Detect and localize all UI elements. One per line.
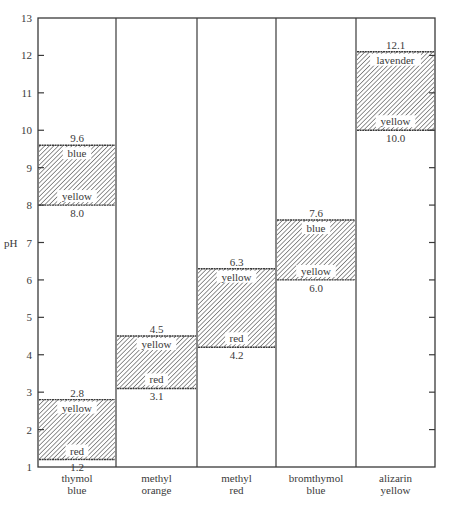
x-category-label: methyl <box>141 472 172 484</box>
ph-indicator-chart: 2.8yellowred1.29.6blueyellow8.04.5yellow… <box>0 0 452 508</box>
x-category-label: yellow <box>381 484 411 496</box>
range-high-color-label: lavender <box>377 54 415 66</box>
range-high-value: 4.5 <box>150 323 164 335</box>
x-category-label: blue <box>307 484 326 496</box>
indicator-column <box>197 18 276 467</box>
range-high-color-label: yellow <box>142 338 172 350</box>
y-tick-label: 9 <box>27 162 33 174</box>
range-low-value: 3.1 <box>150 390 164 402</box>
range-low-value: 6.0 <box>309 282 323 294</box>
range-high-color-label: yellow <box>62 402 92 414</box>
y-tick-label: 13 <box>21 12 33 24</box>
x-category-label: red <box>229 484 244 496</box>
range-high-value: 7.6 <box>309 207 323 219</box>
range-high-color-label: blue <box>68 147 87 159</box>
y-tick-label: 11 <box>21 87 32 99</box>
y-tick-label: 12 <box>21 49 32 61</box>
y-tick-label: 2 <box>27 424 33 436</box>
y-tick-label: 10 <box>21 124 33 136</box>
range-low-color-label: yellow <box>301 265 331 277</box>
y-axis-title: pH <box>4 237 18 249</box>
y-tick-label: 3 <box>27 386 33 398</box>
range-high-value: 6.3 <box>230 256 244 268</box>
range-high-value: 2.8 <box>70 387 84 399</box>
range-high-color-label: yellow <box>222 271 252 283</box>
y-tick-label: 8 <box>27 199 33 211</box>
x-category-label: blue <box>68 484 87 496</box>
transition-range: 12.1lavenderyellow10.0 <box>357 39 434 145</box>
range-low-color-label: yellow <box>381 115 411 127</box>
x-axis-labels: thymolbluemethylorangemethylredbromthymo… <box>61 472 412 496</box>
range-low-color-label: red <box>70 445 85 457</box>
range-high-value: 9.6 <box>70 132 84 144</box>
x-category-label: orange <box>142 484 172 496</box>
range-low-value: 8.0 <box>70 207 84 219</box>
x-category-label: methyl <box>221 472 252 484</box>
range-low-color-label: red <box>149 373 164 385</box>
transition-range: 6.3yellowred4.2 <box>198 256 275 362</box>
range-low-value: 10.0 <box>386 132 406 144</box>
range-low-value: 4.2 <box>230 349 244 361</box>
y-tick-label: 1 <box>27 461 33 473</box>
x-category-label: bromthymol <box>289 472 343 484</box>
y-tick-label: 7 <box>27 237 33 249</box>
y-tick-label: 4 <box>27 349 33 361</box>
x-category-label: alizarin <box>379 472 412 484</box>
range-low-color-label: red <box>229 332 244 344</box>
range-low-color-label: yellow <box>62 190 92 202</box>
x-category-label: thymol <box>61 472 92 484</box>
y-tick-label: 5 <box>27 311 33 323</box>
range-high-color-label: blue <box>307 222 326 234</box>
range-high-value: 12.1 <box>386 39 405 51</box>
y-tick-label: 6 <box>27 274 33 286</box>
